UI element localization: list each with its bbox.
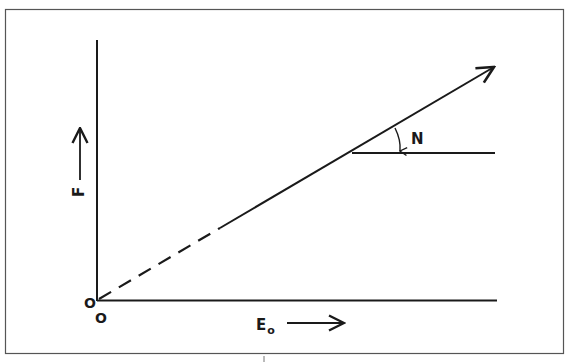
y-axis-label: F <box>70 187 88 197</box>
line-solid-segment <box>220 67 494 228</box>
origin-label-x: O <box>95 310 107 326</box>
angle-arc-arrow <box>395 128 400 151</box>
x-axis-label: Eo <box>256 316 275 337</box>
figure-diagram: N F O O Eo <box>0 0 569 364</box>
line-dashed-segment <box>99 228 220 299</box>
x-axis-label-subscript: o <box>267 324 275 337</box>
angle-label: N <box>411 130 424 148</box>
origin-label-y: O <box>84 295 96 311</box>
x-axis-label-main: E <box>256 316 266 334</box>
